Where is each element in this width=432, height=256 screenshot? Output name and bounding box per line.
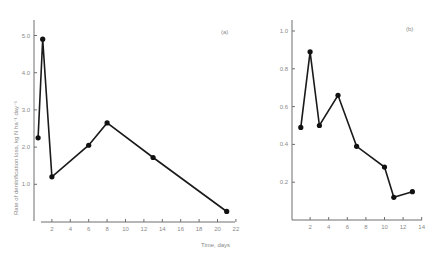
y-tick-label: 5.0 xyxy=(22,33,31,39)
data-point xyxy=(391,195,396,200)
data-point xyxy=(151,155,156,160)
data-point xyxy=(410,189,415,194)
x-tick-label: 4 xyxy=(69,226,73,232)
data-point xyxy=(382,164,387,169)
x-tick-label: 10 xyxy=(381,224,388,230)
data-point xyxy=(40,37,45,42)
data-point xyxy=(86,143,91,148)
panel-a: 1.02.03.04.05.0 246810121416182022 (a) T… xyxy=(13,20,240,248)
data-point xyxy=(335,93,340,98)
data-point xyxy=(36,135,41,140)
x-tick-label: 6 xyxy=(346,224,350,230)
data-point xyxy=(354,144,359,149)
data-point xyxy=(224,209,229,214)
data-point xyxy=(49,174,54,179)
x-tick-label: 10 xyxy=(122,226,129,232)
x-tick-label: 12 xyxy=(400,224,407,230)
x-tick-label: 20 xyxy=(214,226,221,232)
x-tick-label: 8 xyxy=(105,226,109,232)
panel-b: 0.20.40.60.81.0 2468101214 (b) xyxy=(280,20,426,230)
x-tick-label: 2 xyxy=(50,226,54,232)
y-tick-label: 2.0 xyxy=(22,144,31,150)
chart-canvas: 1.02.03.04.05.0 246810121416182022 (a) T… xyxy=(0,0,432,256)
panel-b-label: (b) xyxy=(406,26,413,32)
x-tick-label: 2 xyxy=(308,224,312,230)
x-tick-label: 14 xyxy=(159,226,166,232)
y-tick-label: 3.0 xyxy=(22,107,31,113)
figure: 1.02.03.04.05.0 246810121416182022 (a) T… xyxy=(0,0,432,256)
x-tick-label: 12 xyxy=(141,226,148,232)
panel-a-y-ticks: 1.02.03.04.05.0 xyxy=(22,33,37,188)
x-tick-label: 14 xyxy=(418,224,425,230)
data-point xyxy=(298,125,303,130)
y-tick-label: 0.4 xyxy=(280,141,289,147)
x-tick-label: 6 xyxy=(87,226,91,232)
y-tick-label: 1.0 xyxy=(22,181,31,187)
x-axis-title: Time, days xyxy=(201,242,230,248)
y-tick-label: 1.0 xyxy=(280,28,289,34)
y-tick-label: 0.2 xyxy=(280,179,289,185)
y-tick-label: 4.0 xyxy=(22,70,31,76)
x-tick-label: 8 xyxy=(364,224,368,230)
y-tick-label: 0.8 xyxy=(280,66,289,72)
panel-b-y-ticks: 0.20.40.60.81.0 xyxy=(280,28,295,185)
y-axis-title: Rate of denitrification loss, kg N ha⁻¹ … xyxy=(13,101,19,215)
panel-a-x-ticks: 246810121416182022 xyxy=(50,219,240,232)
panel-b-x-ticks: 2468101214 xyxy=(308,217,425,230)
x-tick-label: 16 xyxy=(177,226,184,232)
x-tick-label: 4 xyxy=(327,224,331,230)
panel-b-data-points xyxy=(298,49,415,200)
data-point xyxy=(317,123,322,128)
panel-a-data-points xyxy=(36,37,230,214)
x-tick-label: 22 xyxy=(233,226,240,232)
panel-a-series-line xyxy=(38,39,227,211)
y-tick-label: 0.6 xyxy=(280,104,289,110)
data-point xyxy=(308,49,313,54)
data-point xyxy=(105,120,110,125)
x-tick-label: 18 xyxy=(196,226,203,232)
panel-a-label: (a) xyxy=(221,29,228,35)
